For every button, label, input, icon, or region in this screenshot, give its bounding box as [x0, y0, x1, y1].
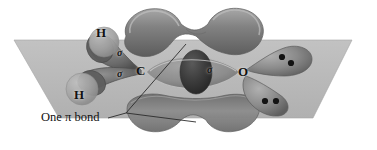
sigma-label-c-o: σ	[207, 65, 212, 75]
pi-lobe-bottom	[127, 94, 259, 132]
atom-label-oxygen: O	[238, 65, 248, 78]
atom-label-h-bottom: H	[74, 88, 84, 101]
atom-label-carbon: C	[136, 64, 145, 77]
diagram-canvas	[0, 0, 377, 150]
sigma-label-c-h-bottom: σ	[117, 69, 122, 79]
orbital-diagram-figure: H H C O σ σ σ One π bond	[0, 0, 377, 150]
pi-bond-caption: One π bond	[41, 111, 99, 124]
atom-label-h-top: H	[96, 26, 106, 39]
sigma-label-c-h-top: σ	[117, 48, 122, 58]
